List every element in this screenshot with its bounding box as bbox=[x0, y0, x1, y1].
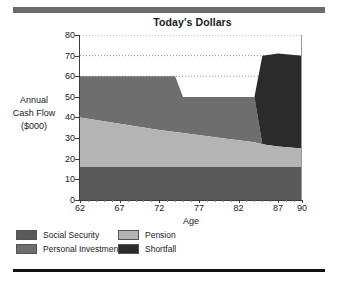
x-minor-tick-73 bbox=[167, 200, 168, 202]
x-minor-tick-76 bbox=[191, 200, 192, 202]
plot-area bbox=[80, 35, 302, 200]
x-minor-tick-70 bbox=[143, 200, 144, 202]
y-tick-mark-60 bbox=[75, 76, 79, 77]
x-minor-tick-64 bbox=[96, 200, 97, 202]
y-tick-label-40: 40 bbox=[49, 112, 75, 122]
x-minor-tick-71 bbox=[151, 200, 152, 202]
x-minor-tick-75 bbox=[183, 200, 184, 202]
legend-swatch-personal-investments bbox=[16, 244, 37, 254]
y-axis-line bbox=[79, 35, 80, 201]
x-tick-label-90: 90 bbox=[290, 203, 314, 213]
x-minor-tick-83 bbox=[246, 200, 247, 202]
x-axis-title: Age bbox=[80, 216, 302, 226]
legend-label-personal-investments: Personal Investments bbox=[43, 243, 125, 255]
x-minor-tick-68 bbox=[128, 200, 129, 202]
y-tick-label-60: 60 bbox=[49, 71, 75, 81]
x-minor-tick-81 bbox=[231, 200, 232, 202]
x-minor-tick-85 bbox=[262, 200, 263, 202]
top-divider-rule bbox=[13, 7, 325, 13]
y-tick-mark-30 bbox=[75, 138, 79, 139]
chart-title: Today's Dollars bbox=[75, 16, 310, 28]
x-tick-label-62: 62 bbox=[68, 203, 92, 213]
y-tick-mark-10 bbox=[75, 179, 79, 180]
x-tick-label-77: 77 bbox=[187, 203, 211, 213]
y-tick-mark-70 bbox=[75, 56, 79, 57]
y-tick-mark-80 bbox=[75, 35, 79, 36]
x-minor-tick-65 bbox=[104, 200, 105, 202]
stacked-area-svg bbox=[80, 35, 302, 200]
x-minor-tick-86 bbox=[270, 200, 271, 202]
y-tick-label-70: 70 bbox=[49, 51, 75, 61]
legend-label-pension: Pension bbox=[145, 229, 176, 241]
y-tick-label-80: 80 bbox=[49, 30, 75, 40]
x-minor-tick-80 bbox=[223, 200, 224, 202]
chart-page: Today's Dollars Annual Cash Flow ($000) bbox=[0, 0, 337, 281]
x-minor-tick-79 bbox=[215, 200, 216, 202]
x-tick-label-87: 87 bbox=[266, 203, 290, 213]
x-minor-tick-88 bbox=[286, 200, 287, 202]
x-tick-label-72: 72 bbox=[147, 203, 171, 213]
area-social-security bbox=[80, 167, 302, 200]
legend-swatch-shortfall bbox=[118, 244, 139, 254]
x-minor-tick-69 bbox=[136, 200, 137, 202]
y-tick-mark-0 bbox=[75, 200, 79, 201]
x-tick-label-82: 82 bbox=[227, 203, 251, 213]
x-minor-tick-78 bbox=[207, 200, 208, 202]
legend-swatch-pension bbox=[118, 230, 139, 240]
bottom-divider-rule bbox=[13, 269, 325, 272]
x-minor-tick-66 bbox=[112, 200, 113, 202]
y-tick-label-30: 30 bbox=[49, 133, 75, 143]
x-minor-tick-89 bbox=[294, 200, 295, 202]
x-tick-label-67: 67 bbox=[108, 203, 132, 213]
x-minor-tick-84 bbox=[254, 200, 255, 202]
y-tick-mark-50 bbox=[75, 97, 79, 98]
legend-label-shortfall: Shortfall bbox=[145, 243, 176, 255]
y-tick-mark-40 bbox=[75, 117, 79, 118]
x-minor-tick-74 bbox=[175, 200, 176, 202]
y-tick-mark-20 bbox=[75, 159, 79, 160]
y-tick-label-10: 10 bbox=[49, 174, 75, 184]
y-tick-label-20: 20 bbox=[49, 154, 75, 164]
legend-label-social-security: Social Security bbox=[43, 229, 99, 241]
y-tick-label-50: 50 bbox=[49, 92, 75, 102]
legend-swatch-social-security bbox=[16, 230, 37, 240]
x-minor-tick-63 bbox=[88, 200, 89, 202]
